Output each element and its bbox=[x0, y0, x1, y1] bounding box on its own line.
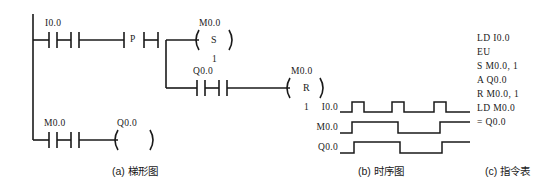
waveform-q00 bbox=[340, 142, 470, 153]
instruction-line-1: LD I0.0 bbox=[477, 34, 510, 44]
label-m00-reset-coil: M0.0 bbox=[291, 67, 313, 77]
timing-waveforms bbox=[340, 102, 470, 153]
label-q00-output-coil: Q0.0 bbox=[117, 119, 137, 129]
timing-label-m00: M0.0 bbox=[303, 123, 338, 133]
plc-figure: I0.0 P M0.0 S 1 Q0.0 M0.0 R 1 M0.0 Q0.0 … bbox=[0, 0, 560, 194]
waveform-i00 bbox=[340, 102, 470, 112]
caption-panel-b: (b) 时序图 bbox=[358, 166, 404, 177]
waveform-m00 bbox=[340, 122, 470, 133]
coil-set-letter: S bbox=[211, 35, 217, 45]
instruction-line-3: S M0.0, 1 bbox=[477, 62, 518, 72]
instruction-line-5: R M0.0, 1 bbox=[477, 90, 519, 100]
coil-set-count: 1 bbox=[212, 55, 217, 65]
instruction-line-4: A Q0.0 bbox=[477, 76, 507, 86]
coil-set-right-paren bbox=[229, 30, 232, 50]
coil-reset-right-paren bbox=[320, 78, 323, 98]
ladder-diagram-graphics bbox=[0, 0, 560, 194]
label-i00-contact: I0.0 bbox=[45, 19, 61, 29]
label-q00-contact: Q0.0 bbox=[193, 67, 213, 77]
timing-label-q00: Q0.0 bbox=[303, 143, 338, 153]
coil-reset-letter: R bbox=[303, 83, 310, 93]
timing-label-i00: I0.0 bbox=[306, 103, 338, 113]
label-m00-set-coil: M0.0 bbox=[199, 19, 221, 29]
instruction-line-2: EU bbox=[477, 48, 490, 58]
instruction-line-6: LD M0.0 bbox=[477, 104, 515, 114]
instruction-line-7: = Q0.0 bbox=[477, 118, 506, 128]
caption-panel-c: (c) 指令表 bbox=[485, 166, 530, 177]
label-m00-contact: M0.0 bbox=[44, 119, 66, 129]
p-transition-label: P bbox=[130, 35, 135, 45]
caption-panel-a: (a) 梯形图 bbox=[112, 166, 158, 177]
coil-output-right-paren bbox=[150, 130, 153, 150]
